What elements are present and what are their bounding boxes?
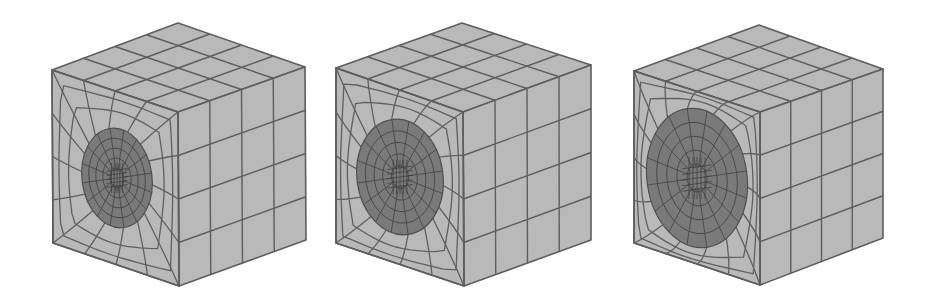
- mesh-cubes-canvas: [0, 0, 929, 303]
- mesh-cube-1: [52, 23, 306, 286]
- mesh-cubes-figure: [0, 0, 929, 303]
- mesh-cube-2: [336, 23, 591, 286]
- mesh-cube-3: [634, 25, 883, 285]
